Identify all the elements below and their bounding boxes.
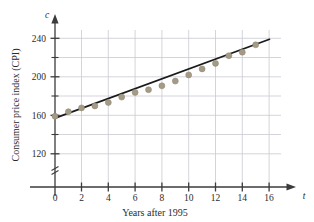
- y-axis-variable-label: c: [45, 10, 50, 20]
- data-point: [65, 109, 71, 115]
- x-tick-label: 16: [264, 193, 274, 203]
- data-point: [146, 87, 152, 93]
- data-point: [105, 100, 111, 106]
- x-tick-label: 12: [211, 193, 221, 203]
- x-axis: [30, 183, 296, 192]
- gridlines-group: [55, 30, 281, 187]
- x-tick-label: 10: [184, 193, 194, 203]
- x-tick-labels: 0 2 4 6 8 10 12 14 16: [53, 193, 274, 203]
- x-tick-label: 2: [79, 193, 84, 203]
- x-axis-variable-label: t: [303, 191, 306, 201]
- x-tick-label: 0: [53, 193, 58, 203]
- cpi-scatter-chart-figure: 240 200 160 120 0 2 4 6 8 10 12 14 16 c …: [0, 0, 314, 222]
- data-point: [119, 94, 125, 100]
- y-tick-labels: 240 200 160 120: [32, 34, 47, 160]
- y-axis-title: Consumer price index (CPI): [10, 48, 22, 161]
- x-axis-title: Years after 1995: [122, 207, 188, 218]
- data-point: [186, 72, 192, 78]
- data-point: [253, 42, 259, 48]
- y-tick-label: 160: [32, 111, 47, 121]
- data-point: [52, 113, 58, 119]
- data-point: [239, 49, 245, 55]
- data-point: [213, 60, 219, 66]
- y-axis: [51, 14, 60, 196]
- chart-canvas: 240 200 160 120 0 2 4 6 8 10 12 14 16 c …: [0, 0, 314, 222]
- x-tick-label: 8: [160, 193, 165, 203]
- y-axis-arrowhead: [51, 14, 58, 24]
- x-tick-label: 14: [238, 193, 248, 203]
- data-point: [199, 66, 205, 72]
- data-point: [132, 89, 138, 95]
- data-point: [79, 105, 85, 111]
- x-axis-arrowhead: [287, 183, 297, 190]
- data-point: [172, 78, 178, 84]
- y-tick-label: 200: [32, 72, 47, 82]
- y-tick-label: 240: [32, 34, 47, 44]
- data-point: [92, 103, 98, 109]
- x-tick-label: 6: [133, 193, 138, 203]
- data-point: [226, 53, 232, 59]
- x-tick-label: 4: [106, 193, 111, 203]
- horizontal-gridlines: [55, 38, 281, 154]
- data-point: [159, 83, 165, 89]
- y-tick-label: 120: [32, 149, 47, 159]
